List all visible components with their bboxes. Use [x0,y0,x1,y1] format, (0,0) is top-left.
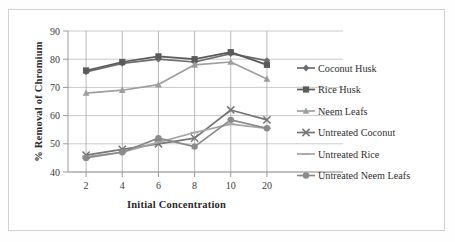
legend-label: Untreated Neem Leafs [318,170,410,181]
y-tick-label: 70 [50,82,60,93]
x-tick-label: 20 [262,180,272,191]
y-tick-label: 90 [50,26,60,37]
x-tick-label: 8 [192,180,197,191]
data-point [119,149,125,155]
y-tick-label: 60 [50,110,60,121]
y-tick-label: 40 [50,167,60,178]
legend-marker-circle-icon [303,172,309,178]
data-point [119,59,125,65]
data-point [155,53,161,59]
data-point [264,62,270,68]
x-tick-label: 10 [226,180,236,191]
legend-marker-square-icon [303,86,309,92]
chart-figure: 40506070809024681020% Removal of Chromiu… [0,0,455,242]
x-axis-title: Initial Concentration [127,199,226,210]
y-tick-label: 50 [50,138,60,149]
plot-container: 40506070809024681020% Removal of Chromiu… [0,0,455,242]
series-line [86,54,267,72]
data-point [83,67,89,73]
data-point [228,117,234,123]
y-tick-label: 80 [50,54,60,65]
data-point [155,135,161,141]
x-tick-label: 2 [84,180,89,191]
legend-label: Rice Husk [318,84,362,95]
legend: Coconut HuskRice HuskNeem LeafsUntreated… [297,63,410,182]
legend-marker-diamond-icon [303,65,310,72]
legend-item-neem-leafs[interactable]: Neem Leafs [297,106,368,117]
legend-item-untreated-rice[interactable]: Untreated Rice [297,149,380,160]
legend-label: Coconut Husk [318,63,377,74]
data-point [228,49,234,55]
x-tick-label: 6 [156,180,161,191]
series-coconut-husk [83,50,271,75]
series-untreated-coconut [82,106,270,158]
series-line [86,110,267,155]
legend-label: Untreated Coconut [318,127,395,138]
data-point [191,143,197,149]
legend-item-untreated-coconut[interactable]: Untreated Coconut [297,127,395,138]
series-line [86,62,267,93]
data-point [83,155,89,161]
legend-item-rice-husk[interactable]: Rice Husk [297,84,362,95]
line-chart: 40506070809024681020% Removal of Chromiu… [0,0,455,242]
series-untreated-neem-leafs [83,117,270,161]
data-point [264,125,270,131]
y-axis-title: % Removal of Chromium [33,41,44,161]
legend-item-coconut-husk[interactable]: Coconut Husk [297,63,377,74]
legend-label: Neem Leafs [318,106,368,117]
x-tick-label: 4 [120,180,125,191]
legend-label: Untreated Rice [318,149,380,160]
